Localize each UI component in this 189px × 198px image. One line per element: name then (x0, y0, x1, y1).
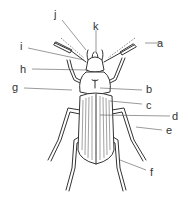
label-d: d (172, 111, 178, 122)
label-h: h (20, 64, 26, 75)
label-f: f (150, 167, 153, 178)
label-j: j (54, 9, 56, 20)
label-c: c (146, 100, 152, 111)
head (86, 57, 104, 72)
label-a: a (157, 38, 163, 49)
label-b: b (146, 84, 152, 95)
label-k: k (93, 21, 99, 32)
label-g: g (12, 82, 18, 93)
label-e: e (166, 125, 172, 136)
beetle-diagram: j k a i h g b c d e f (0, 0, 189, 198)
label-i: i (20, 41, 22, 52)
